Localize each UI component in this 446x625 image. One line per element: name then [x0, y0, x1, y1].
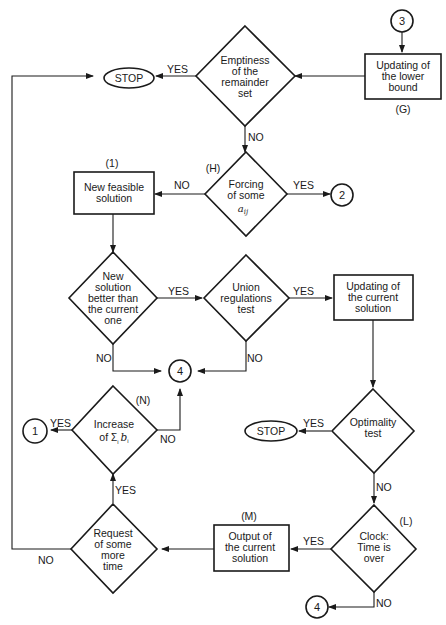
union-decision: Union regulations test [204, 255, 289, 341]
output-line3: solution [232, 552, 268, 564]
label-forcing-no: NO [174, 179, 190, 191]
label-union-yes: YES [293, 285, 314, 297]
emptiness-decision: Emptiness of the remainder set [196, 26, 295, 126]
update-current-box: Updating of the current solution [334, 275, 413, 320]
label-clock-yes: YES [303, 535, 324, 547]
stop-top-label: STOP [115, 72, 143, 84]
output-tag: (M) [241, 510, 257, 522]
connector-2: 2 [331, 184, 353, 206]
request-decision: Request of some more time [71, 504, 157, 593]
label-increase-yes: YES [50, 417, 71, 429]
forcing-decision: Forcing of some aij (H) [205, 152, 287, 236]
update-lower-bound-box: Updating of the lower bound (G) [365, 54, 441, 115]
clock-tag: (L) [400, 515, 413, 527]
optimality-line2: test [365, 427, 382, 439]
label-request-no: NO [38, 554, 54, 566]
stop-mid-label: STOP [257, 425, 285, 437]
stop-terminal-top: STOP [104, 68, 154, 88]
label-emptiness-yes: YES [167, 63, 188, 75]
label-union-no: NO [247, 352, 263, 364]
edge-clock-no-4 [329, 592, 374, 607]
label-increase-no: NO [160, 433, 176, 445]
forcing-tag: (H) [206, 162, 221, 174]
clock-decision: Clock: Time is over (L) [331, 505, 416, 592]
edge-request-no-stop [12, 76, 93, 549]
increase-line1: Increase [94, 418, 134, 430]
optimality-decision: Optimality test [332, 389, 414, 473]
label-optimality-no: NO [376, 481, 392, 493]
union-line3: test [238, 303, 255, 315]
label-clock-no: NO [376, 597, 392, 609]
connector-1-label: 1 [32, 425, 38, 437]
increase-tag: (N) [136, 394, 151, 406]
increase-expression: ofΣibi [99, 431, 128, 445]
label-better-no: NO [96, 352, 112, 364]
clock-line3: over [364, 552, 385, 564]
edge-increase-no-4 [157, 389, 180, 430]
label-better-yes: YES [168, 285, 189, 297]
new-feasible-tag: (1) [106, 157, 119, 169]
better-decision: New solution better than the current one [69, 252, 157, 344]
connector-1: 1 [23, 419, 47, 443]
connector-4-bottom-label: 4 [314, 601, 320, 613]
flowchart: 3 Updating of the lower bound (G) Emptin… [0, 0, 446, 625]
emptiness-line4: set [238, 87, 252, 99]
increase-decision: Increase ofΣibi (N) [72, 386, 157, 474]
output-current-box: Output of the current solution (M) [214, 510, 289, 571]
connector-3-label: 3 [399, 15, 405, 27]
label-emptiness-no: NO [248, 131, 264, 143]
connector-4-bottom: 4 [306, 596, 328, 618]
edge-union-no-4 [198, 341, 246, 371]
update-lower-tag: (G) [395, 103, 410, 115]
connector-3: 3 [391, 10, 413, 32]
label-forcing-yes: YES [293, 179, 314, 191]
label-optimality-yes: YES [303, 417, 324, 429]
connector-4-mid-label: 4 [177, 365, 183, 377]
stop-terminal-mid: STOP [245, 421, 297, 441]
update-lower-line3: bound [388, 81, 417, 93]
update-current-line3: solution [355, 302, 391, 314]
new-feasible-line2: solution [96, 192, 132, 204]
connector-4-mid: 4 [169, 360, 191, 382]
edge-better-no-4 [113, 344, 161, 371]
request-line4: time [103, 560, 123, 572]
connector-2-label: 2 [339, 189, 345, 201]
better-line5: one [104, 314, 122, 326]
forcing-line2: of some [227, 189, 265, 201]
label-request-yes: YES [115, 484, 136, 496]
new-feasible-box: New feasible solution (1) [74, 157, 154, 214]
